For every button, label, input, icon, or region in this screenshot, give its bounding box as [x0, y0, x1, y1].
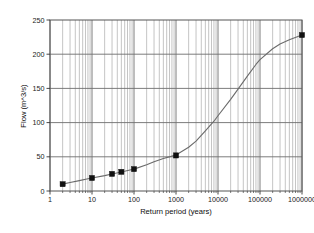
y-tick-label: 200 — [33, 50, 45, 59]
data-point-marker — [131, 167, 136, 172]
data-point-marker — [109, 171, 114, 176]
chart-figure: 1101001000100001000001000000 05010015020… — [0, 0, 314, 233]
y-tick-label: 150 — [33, 84, 45, 93]
data-point-marker — [119, 169, 124, 174]
data-point-marker — [299, 32, 304, 37]
y-tick-label: 250 — [33, 16, 45, 25]
x-tick-label: 1000000 — [288, 195, 314, 204]
y-tick-label: 100 — [33, 118, 45, 127]
y-tick-label: 50 — [37, 152, 45, 161]
x-tick-label: 10 — [88, 195, 96, 204]
data-point-marker — [60, 182, 65, 187]
x-tick-label: 1 — [48, 195, 52, 204]
y-tick-label: 0 — [41, 187, 45, 196]
x-axis-title: Return period (years) — [140, 207, 212, 216]
x-tick-label: 100 — [128, 195, 140, 204]
data-point-marker — [173, 153, 178, 158]
x-tick-label: 100000 — [248, 195, 272, 204]
x-tick-label: 1000 — [168, 195, 184, 204]
y-axis-title: Flow (m^3/s) — [19, 84, 28, 128]
x-tick-label: 10000 — [208, 195, 228, 204]
data-point-marker — [89, 175, 94, 180]
flow-return-period-chart: 1101001000100001000001000000 05010015020… — [0, 0, 314, 233]
